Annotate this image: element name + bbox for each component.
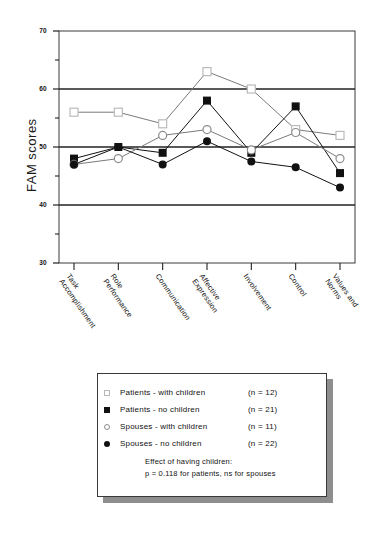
y-tick-label: 60	[31, 85, 47, 92]
legend-sample-size: (n = 21)	[248, 405, 277, 414]
y-tick-label: 70	[31, 27, 47, 34]
legend-box: Patients - with children(n = 12)Patients…	[97, 373, 327, 497]
legend-note-line-2: p = 0.118 for patients, ns for spouses	[145, 469, 276, 478]
legend-sample-size: (n = 12)	[248, 388, 277, 397]
chart-container: FAM scores 3040506070 TaskAccomplishment…	[0, 0, 382, 551]
legend-marker-filled-square	[104, 407, 110, 413]
legend-marker-open-circle	[104, 424, 110, 430]
legend-label: Spouses - with children	[120, 422, 207, 431]
y-tick-label: 30	[31, 259, 47, 266]
legend-note-line-1: Effect of having children:	[145, 457, 232, 466]
y-tick-label: 40	[31, 201, 47, 208]
legend-label: Spouses - no children	[120, 439, 202, 448]
legend-sample-size: (n = 22)	[248, 439, 277, 448]
plot-area	[0, 0, 382, 300]
legend-sample-size: (n = 11)	[248, 422, 277, 431]
y-tick-label: 50	[31, 143, 47, 150]
legend-label: Patients - no children	[120, 405, 200, 414]
legend-label: Patients - with children	[120, 388, 205, 397]
legend-marker-open-square	[104, 390, 110, 396]
legend-marker-filled-circle	[104, 441, 110, 447]
